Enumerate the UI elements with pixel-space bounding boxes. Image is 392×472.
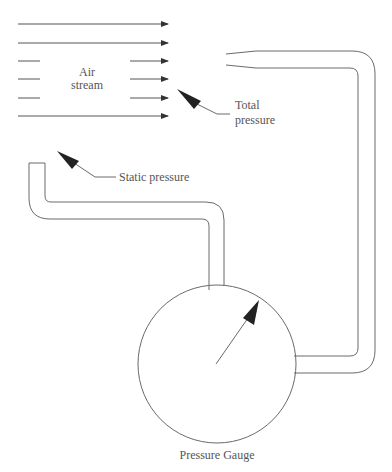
air-stream-label-1: Air xyxy=(79,65,95,79)
air-stream-label-2: stream xyxy=(71,78,104,92)
gauge-dial xyxy=(138,285,296,443)
pitot-static-diagram: Air stream Total pressure Static pressur… xyxy=(0,0,392,472)
arrowhead-icon xyxy=(177,89,201,109)
pointer-line xyxy=(195,103,230,114)
arrowhead-icon xyxy=(57,151,79,169)
pointer-line xyxy=(74,163,116,177)
static-pressure-pointer xyxy=(57,151,116,177)
total-pressure-label-1: Total xyxy=(235,98,260,112)
total-pressure-label-2: pressure xyxy=(235,113,275,127)
pressure-gauge xyxy=(138,285,296,443)
pressure-gauge-label: Pressure Gauge xyxy=(180,448,255,462)
static-pressure-label: Static pressure xyxy=(119,170,189,184)
gauge-needle xyxy=(216,318,248,364)
total-pressure-pointer xyxy=(177,89,230,114)
